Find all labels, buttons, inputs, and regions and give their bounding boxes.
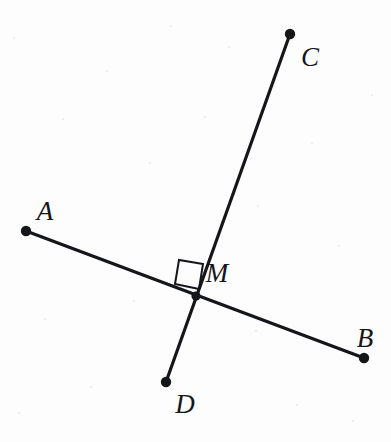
scan-speckle [170, 25, 172, 27]
point-label-d: D [175, 391, 195, 418]
scan-speckle [149, 162, 151, 164]
scan-speckle [106, 70, 108, 72]
scan-speckle [204, 116, 206, 118]
scan-speckle [352, 420, 354, 422]
point-dot-d [161, 377, 171, 387]
scan-speckle [133, 300, 135, 302]
point-dot-a [21, 226, 31, 236]
scan-speckle [311, 142, 313, 144]
geometry-figure: ABCDM [0, 0, 391, 442]
scan-speckle [296, 404, 298, 406]
segment-cd [166, 34, 290, 382]
scan-speckle [13, 37, 15, 39]
scan-speckle [90, 386, 92, 388]
right-angle-marker [175, 260, 203, 289]
segments-group [26, 34, 364, 382]
point-dot-b [359, 353, 369, 363]
point-label-b: B [357, 325, 374, 352]
scan-speckle [371, 94, 373, 96]
point-dot-m [191, 291, 200, 300]
scan-speckle [255, 330, 257, 332]
point-dot-c [285, 29, 295, 39]
scan-speckle [338, 245, 340, 247]
diagram-canvas [0, 0, 391, 442]
scan-speckle [44, 318, 46, 320]
scan-speckle [18, 412, 20, 414]
right-angle-square-icon [175, 260, 203, 289]
point-label-m: M [206, 260, 229, 287]
point-dots-group [21, 29, 369, 387]
scan-speckle [228, 46, 230, 48]
point-label-a: A [37, 198, 54, 225]
point-label-c: C [301, 44, 319, 71]
scan-speckle [62, 118, 64, 120]
scan-speckle [257, 205, 259, 207]
